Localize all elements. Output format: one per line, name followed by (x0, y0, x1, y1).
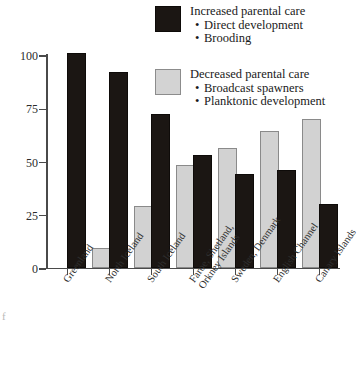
bar-group (88, 54, 130, 268)
y-axis-tick-label: 50 (4, 157, 38, 169)
plot-area: 0255075100 (46, 54, 340, 269)
y-axis-tick-label: 100 (4, 50, 38, 62)
bar-chart-figure: Increased parental care Direct developme… (0, 0, 357, 365)
bar-increased-parental-care (67, 53, 86, 268)
bar-group (46, 54, 88, 268)
dark-square-swatch-icon (155, 6, 181, 32)
legend-increased-title: Increased parental care (190, 5, 305, 19)
y-axis-tick (39, 215, 46, 216)
legend-increased-text: Increased parental care Direct developme… (190, 5, 305, 46)
y-axis-tick (39, 55, 46, 56)
y-axis-tick (39, 268, 46, 269)
legend-increased-bullets: Direct development Brooding (190, 19, 305, 46)
bar-increased-parental-care (109, 72, 128, 268)
x-axis-category-labels: GreenlandNorth IcelandSouth IcelandFaroe… (0, 276, 357, 365)
y-axis-tick-label: 25 (4, 210, 38, 222)
y-axis-tick (39, 109, 46, 110)
legend-bullet: Direct development (204, 19, 305, 33)
bar-series-container (46, 54, 340, 268)
y-axis-tick-label: 0 (4, 263, 38, 275)
edge-text-fragment: f (2, 310, 6, 322)
legend-entry-increased-parental-care: Increased parental care Direct developme… (155, 5, 305, 46)
y-axis-tick (39, 162, 46, 163)
legend-bullet: Brooding (204, 32, 305, 46)
y-axis-tick-label: 75 (4, 103, 38, 115)
